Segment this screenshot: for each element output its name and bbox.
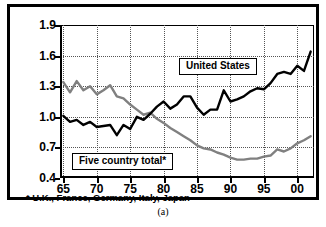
series-label-united-states: United States — [179, 58, 257, 75]
line-five-country-total — [63, 81, 310, 160]
y-axis-tick-label: 1.0 — [26, 111, 56, 123]
y-axis-tick-label: 0.7 — [26, 141, 56, 153]
y-axis-tick-label: 1.3 — [26, 80, 56, 92]
x-axis-tick-label: 00 — [282, 183, 312, 195]
x-axis-tick-label: 95 — [249, 183, 279, 195]
series-label-five-country: Five country total* — [72, 153, 173, 170]
y-axis-tick-label: 1.6 — [26, 50, 56, 62]
x-axis-tick-label: 90 — [215, 183, 245, 195]
y-axis-tick-label: 1.9 — [26, 19, 56, 31]
footnote-text: * U.K., France, Germany, Italy, Japan — [26, 193, 190, 203]
figure-caption: (a) — [0, 206, 326, 217]
figure-panel-a: 0.40.71.01.31.61.9 6570758085909500 Unit… — [0, 0, 326, 227]
figure-frame: 0.40.71.01.31.61.9 6570758085909500 Unit… — [7, 4, 319, 200]
y-axis-labels: 0.40.71.01.31.61.9 — [22, 25, 56, 178]
